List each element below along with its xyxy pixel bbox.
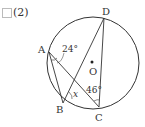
angle-label-x: x bbox=[73, 89, 78, 99]
label-D: D bbox=[102, 6, 110, 17]
center-point-O bbox=[91, 61, 94, 64]
label-C: C bbox=[95, 112, 103, 123]
label-A: A bbox=[37, 44, 46, 55]
label-O: O bbox=[89, 66, 97, 77]
circle-geometry-diagram: A B C D O 24° 46° x bbox=[0, 0, 145, 127]
angle-label-46: 46° bbox=[86, 85, 102, 95]
label-B: B bbox=[56, 104, 63, 115]
angle-label-24: 24° bbox=[62, 44, 78, 54]
angle-arc-x bbox=[69, 92, 72, 99]
